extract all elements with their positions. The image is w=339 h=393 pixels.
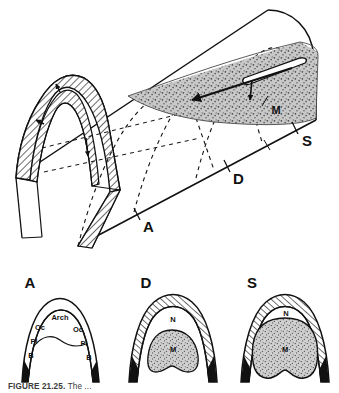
left-foot-base	[22, 237, 42, 238]
section-A-label-oc-left: Oc	[35, 323, 45, 332]
three-d-arch-tube-panel: A D S M	[16, 10, 318, 248]
figure-canvas: A D S M A Arch Oc Oc Pl Pl B B	[0, 0, 339, 393]
left-outer-foot-edge-inner	[37, 182, 42, 237]
section-A-floor-arc	[34, 337, 86, 346]
cross-section-D-title: D	[141, 274, 152, 291]
section-A-label-oc-right: Oc	[73, 325, 83, 334]
left-outer-foot-edge	[16, 178, 22, 238]
section-A-label-arch: Arch	[51, 313, 69, 322]
cross-section-S: S N M	[241, 274, 329, 382]
section-A-label-pl-right: Pl	[80, 339, 87, 348]
figure-root: A D S M A Arch Oc Oc Pl Pl B B	[0, 0, 339, 393]
label-section-S-3d: S	[302, 132, 312, 149]
cross-section-S-title: S	[247, 274, 257, 291]
mesoderm-wedge-fill	[128, 42, 318, 125]
central-pillar-hatched	[78, 190, 120, 248]
cross-section-A: A Arch Oc Oc Pl Pl B B	[22, 274, 99, 382]
cross-section-D: D N M	[129, 274, 217, 382]
figure-caption-number: FIGURE 21.25.	[8, 382, 65, 391]
label-section-A-3d: A	[143, 218, 154, 235]
label-section-D-3d: D	[233, 170, 244, 187]
mesoderm-wedge-group	[128, 42, 318, 125]
figure-caption-body: The ...	[68, 382, 92, 391]
label-mesoderm-M-3d: M	[271, 104, 280, 116]
section-A-label-b-right: B	[86, 353, 92, 362]
internal-horizon-line-upper	[42, 110, 196, 148]
section-A-label-pl-left: Pl	[30, 337, 37, 346]
figure-caption: FIGURE 21.25. The ...	[8, 382, 339, 391]
section-S-label-M: M	[282, 345, 288, 354]
cross-section-A-title: A	[25, 274, 36, 291]
section-S-label-N: N	[283, 309, 288, 318]
section-D-label-M: M	[170, 345, 176, 354]
section-A-label-b-left: B	[28, 351, 34, 360]
section-D-label-N: N	[170, 315, 175, 324]
